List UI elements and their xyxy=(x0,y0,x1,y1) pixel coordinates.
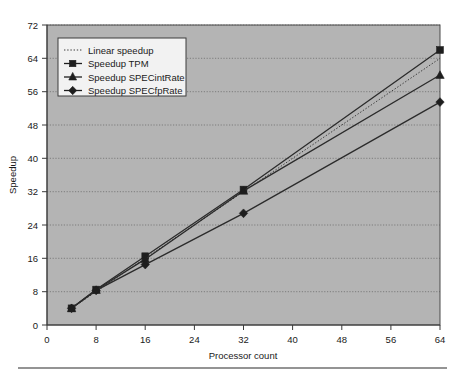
data-point-speedup-tpm xyxy=(437,47,444,54)
chart-figure: 72 64 56 48 40 32 24 16 8 0 Speedup xyxy=(0,0,465,375)
legend-item-label-speedup-specintrate: Speedup SPECintRate xyxy=(88,72,185,83)
y-tick-label: 8 xyxy=(33,286,38,297)
y-axis-title: Speedup xyxy=(7,156,18,194)
x-tick-label: 64 xyxy=(435,334,446,345)
legend-item-label-speedup-specfprate: Speedup SPECfpRate xyxy=(88,85,183,96)
legend-item-label-linear-speedup: Linear speedup xyxy=(88,45,154,56)
y-tick-label: 64 xyxy=(27,53,38,64)
x-tick-label: 32 xyxy=(238,334,249,345)
x-tick-label: 56 xyxy=(386,334,397,345)
speedup-line-chart: 72 64 56 48 40 32 24 16 8 0 Speedup xyxy=(0,0,465,375)
y-tick-label: 72 xyxy=(27,20,38,31)
y-tick-label: 24 xyxy=(27,220,38,231)
y-tick-label: 0 xyxy=(33,320,38,331)
chart-legend: Linear speedup Speedup TPM Speedup SPECi… xyxy=(58,38,186,96)
y-tick-label: 32 xyxy=(27,186,38,197)
x-tick-label: 40 xyxy=(287,334,298,345)
x-tick-label: 16 xyxy=(140,334,151,345)
legend-item-label-speedup-tpm: Speedup TPM xyxy=(88,58,149,69)
square-marker-swatch-icon xyxy=(70,60,76,66)
y-tick-label: 48 xyxy=(27,120,38,131)
x-tick-label: 24 xyxy=(189,334,200,345)
x-tick-label: 48 xyxy=(337,334,348,345)
y-tick-label: 56 xyxy=(27,86,38,97)
x-tick-label: 8 xyxy=(93,334,98,345)
y-tick-label: 40 xyxy=(27,153,38,164)
x-tick-label: 0 xyxy=(44,334,49,345)
x-axis-title: Processor count xyxy=(209,350,278,361)
y-tick-label: 16 xyxy=(27,253,38,264)
